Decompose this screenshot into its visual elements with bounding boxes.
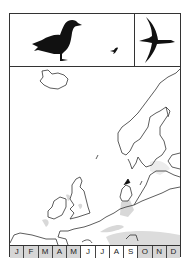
range-map — [10, 67, 180, 245]
month-feb: F — [24, 246, 38, 258]
month-mar: M — [39, 246, 53, 258]
month-jul: J — [96, 246, 110, 258]
flying-goose-silhouette-icon — [135, 14, 180, 66]
month-jan: J — [10, 246, 24, 258]
europe-map — [10, 67, 180, 245]
month-may: M — [67, 246, 81, 258]
range-shading-ireland — [42, 219, 49, 227]
standing-goose-silhouette-icon — [10, 14, 134, 66]
month-aug: A — [110, 246, 124, 258]
month-dec: D — [167, 246, 180, 258]
month-jun: J — [81, 246, 95, 258]
month-sep: S — [124, 246, 138, 258]
month-oct: O — [138, 246, 152, 258]
month-bar: J F M A M J J A S O N D — [10, 245, 180, 258]
species-card: J F M A M J J A S O N D — [9, 13, 181, 257]
silhouette-header — [10, 14, 180, 67]
month-apr: A — [53, 246, 67, 258]
month-nov: N — [153, 246, 167, 258]
